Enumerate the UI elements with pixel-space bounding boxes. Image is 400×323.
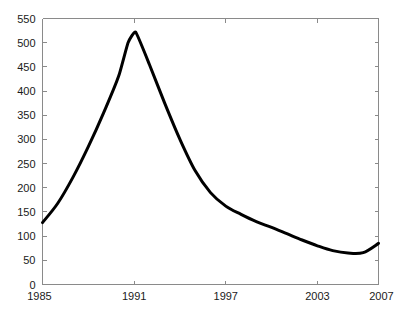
y-tick-label: 300 bbox=[17, 133, 35, 145]
chart-background bbox=[0, 0, 400, 323]
x-tick-label: 1985 bbox=[27, 290, 51, 302]
y-tick-label: 550 bbox=[17, 13, 35, 25]
x-tick-label: 2007 bbox=[369, 290, 393, 302]
x-tick-label: 1991 bbox=[122, 290, 146, 302]
y-tick-label: 50 bbox=[23, 254, 35, 266]
x-tick-label: 1997 bbox=[214, 290, 238, 302]
x-tick-label: 2003 bbox=[305, 290, 329, 302]
chart-page: 050100150200250300350400450500550 198519… bbox=[0, 0, 400, 323]
y-tick-label: 250 bbox=[17, 158, 35, 170]
y-tick-label: 150 bbox=[17, 206, 35, 218]
y-tick-label: 350 bbox=[17, 109, 35, 121]
y-tick-label: 200 bbox=[17, 182, 35, 194]
y-tick-label: 400 bbox=[17, 85, 35, 97]
y-tick-label: 450 bbox=[17, 61, 35, 73]
line-chart: 050100150200250300350400450500550 198519… bbox=[0, 0, 400, 323]
y-tick-label: 100 bbox=[17, 230, 35, 242]
y-tick-label: 500 bbox=[17, 37, 35, 49]
